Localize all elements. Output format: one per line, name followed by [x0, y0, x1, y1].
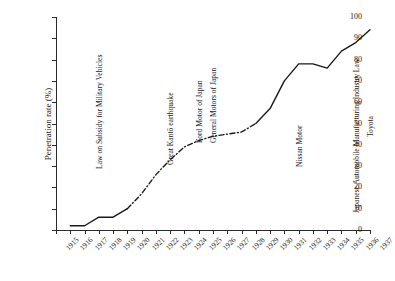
x-tick-1927 — [227, 230, 228, 234]
x-tick-1916 — [70, 230, 71, 234]
x-tick-1930 — [270, 230, 271, 234]
x-tick-label-1937: 1937 — [378, 236, 394, 252]
x-tick-1923 — [170, 230, 171, 234]
x-tick-1934 — [327, 230, 328, 234]
series-segment-solid — [256, 30, 370, 124]
x-tick-1918 — [99, 230, 100, 234]
x-tick-1917 — [85, 230, 86, 234]
x-tick-1926 — [213, 230, 214, 234]
x-tick-1935 — [341, 230, 342, 234]
x-tick-1921 — [142, 230, 143, 234]
x-tick-1928 — [242, 230, 243, 234]
x-tick-1919 — [113, 230, 114, 234]
x-tick-1929 — [256, 230, 257, 234]
series-segment-solid — [70, 209, 127, 226]
plot-area: Penetration rate (%) 0102030405060708090… — [56, 17, 370, 230]
x-tick-1924 — [184, 230, 185, 234]
x-tick-1922 — [156, 230, 157, 234]
x-tick-1925 — [199, 230, 200, 234]
x-tick-1937 — [370, 230, 371, 234]
x-tick-1915 — [56, 230, 57, 234]
x-tick-1936 — [356, 230, 357, 234]
x-tick-1933 — [313, 230, 314, 234]
data-series-line — [56, 17, 370, 230]
series-segment-dashdot — [127, 124, 255, 209]
x-tick-1932 — [299, 230, 300, 234]
x-tick-1931 — [284, 230, 285, 234]
x-tick-1920 — [127, 230, 128, 234]
